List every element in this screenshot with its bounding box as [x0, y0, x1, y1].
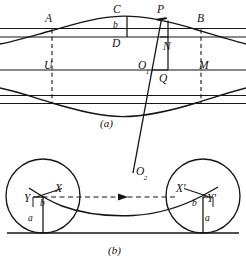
label-point-X: X	[55, 183, 62, 195]
label-segment-a-left: a	[28, 214, 33, 224]
arrowhead-icon	[118, 194, 128, 201]
label-point-Y-prime: Y′	[207, 193, 216, 205]
label-point-Y: Y	[24, 193, 30, 205]
curve-bottom-sinusoid	[0, 88, 246, 117]
label-point-B: B	[197, 13, 204, 25]
label-point-O2-subscript: 2	[144, 174, 148, 182]
label-segment-b-CD: b	[113, 21, 118, 31]
label-point-X-prime: X′	[176, 183, 186, 195]
label-point-C: C	[113, 4, 121, 16]
panel-a-group	[0, 16, 246, 173]
caption-panel-a: (a)	[100, 118, 113, 129]
figure-drawing	[0, 0, 246, 263]
label-point-O1: O1	[138, 60, 150, 74]
label-point-Q: Q	[159, 73, 167, 85]
label-point-N: N	[163, 41, 171, 53]
label-point-D: D	[112, 38, 120, 50]
label-point-M: M	[199, 60, 209, 72]
curve-top-sinusoid	[0, 16, 246, 44]
label-point-U: U	[44, 60, 52, 72]
label-point-P: P	[157, 4, 164, 16]
figure-container: A C P B D N U M Q O1 b (a) X Y X′ Y′ O2 …	[0, 0, 246, 263]
label-segment-a-right: a	[205, 214, 210, 224]
label-point-O1-subscript: 1	[146, 68, 150, 76]
caption-panel-b: (b)	[108, 245, 121, 256]
label-point-A: A	[45, 13, 52, 25]
point-marker-P	[158, 18, 166, 19]
label-segment-b-right: b	[192, 199, 197, 209]
label-point-O2: O2	[136, 166, 148, 180]
tangent-stroke-X-prime	[184, 189, 208, 197]
label-segment-b-left: b	[40, 199, 45, 209]
